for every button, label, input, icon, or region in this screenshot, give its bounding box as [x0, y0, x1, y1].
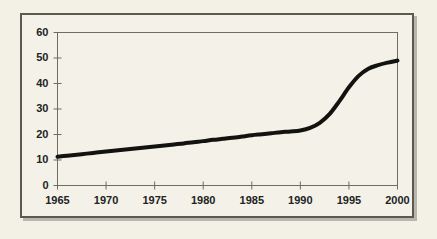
x-axis-tick-label: 1965: [38, 194, 78, 206]
y-axis-tick-label: 10: [25, 153, 49, 165]
x-axis-tick-label: 1990: [280, 194, 320, 206]
x-axis-tick-label: 1970: [86, 194, 126, 206]
x-axis-tick-label: 2000: [378, 194, 418, 206]
y-axis-tick-label: 20: [25, 128, 49, 140]
data-series-line: [58, 61, 398, 157]
chart-figure: 0102030405060 19651970197519801985199019…: [0, 0, 437, 239]
plot-frame-rect: [58, 33, 398, 186]
y-axis-tick-label: 30: [25, 102, 49, 114]
y-axis-tick-label: 40: [25, 77, 49, 89]
plot-area: 0102030405060 19651970197519801985199019…: [0, 0, 437, 239]
y-axis-tick-label: 60: [25, 26, 49, 38]
y-axis-tick-label: 0: [25, 179, 49, 191]
y-axis-tick-label: 50: [25, 51, 49, 63]
x-axis-tick-label: 1995: [329, 194, 369, 206]
x-axis-tick-label: 1975: [135, 194, 175, 206]
x-axis-tick-label: 1985: [232, 194, 272, 206]
x-axis-tick-label: 1980: [183, 194, 223, 206]
